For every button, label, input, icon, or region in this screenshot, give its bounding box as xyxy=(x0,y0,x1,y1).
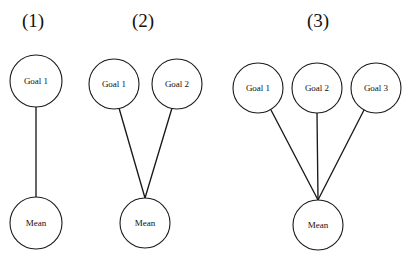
node-mean[interactable]: Mean xyxy=(10,197,62,249)
node-goal-2[interactable]: Goal 2 xyxy=(292,63,342,113)
node-label-goal-3: Goal 3 xyxy=(364,83,389,93)
node-label-goal-1: Goal 1 xyxy=(102,79,126,89)
canvas-background xyxy=(0,0,420,259)
node-goal-3[interactable]: Goal 3 xyxy=(351,63,401,113)
node-label-mean: Mean xyxy=(308,220,329,230)
node-mean[interactable]: Mean xyxy=(293,200,343,250)
panel-label-2: (2) xyxy=(132,10,154,32)
node-goal-1[interactable]: Goal 1 xyxy=(89,59,139,109)
node-goal-1[interactable]: Goal 1 xyxy=(233,63,283,113)
node-goal-2[interactable]: Goal 2 xyxy=(152,59,202,109)
node-label-mean: Mean xyxy=(26,218,47,228)
node-label-mean: Mean xyxy=(135,218,156,228)
node-label-goal-1: Goal 1 xyxy=(246,83,270,93)
node-mean[interactable]: Mean xyxy=(120,198,170,248)
node-goal-1[interactable]: Goal 1 xyxy=(10,55,62,107)
diagram-canvas: (1)Goal 1Mean(2)Goal 1Goal 2Mean(3)Goal … xyxy=(0,0,420,259)
panel-label-1: (1) xyxy=(22,10,44,32)
path-diagram: (1)Goal 1Mean(2)Goal 1Goal 2Mean(3)Goal … xyxy=(0,0,420,259)
panel-label-3: (3) xyxy=(307,10,329,32)
node-label-goal-1: Goal 1 xyxy=(24,76,48,86)
node-label-goal-2: Goal 2 xyxy=(305,83,329,93)
node-label-goal-2: Goal 2 xyxy=(165,79,189,89)
